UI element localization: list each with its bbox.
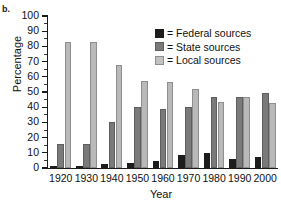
bar xyxy=(76,166,83,168)
bar xyxy=(211,97,218,168)
y-axis-minor-tick xyxy=(44,130,47,131)
panel-label: b. xyxy=(2,4,10,15)
x-axis-tick-label: 1930 xyxy=(72,172,100,184)
bar xyxy=(218,102,225,168)
y-axis-tick-label: 60 xyxy=(13,71,39,82)
bar xyxy=(204,153,211,168)
bar xyxy=(153,161,160,168)
legend-item: = Federal sources xyxy=(155,27,279,39)
bar-group xyxy=(76,16,97,168)
legend-swatch-federal xyxy=(155,29,164,38)
y-axis-tick xyxy=(42,137,47,138)
y-axis-minor-tick xyxy=(44,84,47,85)
y-axis-tick-label: 80 xyxy=(13,40,39,51)
bar-group xyxy=(101,16,122,168)
bar xyxy=(255,157,262,168)
bar xyxy=(243,97,250,168)
x-axis-tick-label: 1940 xyxy=(98,172,126,184)
legend-label: = Federal sources xyxy=(167,27,251,39)
y-axis-tick xyxy=(42,122,47,123)
legend-item: = State sources xyxy=(155,41,279,53)
bar xyxy=(269,103,276,168)
bar xyxy=(141,81,148,168)
bar xyxy=(160,109,167,168)
bar xyxy=(167,82,174,168)
y-axis-tick xyxy=(42,15,47,16)
bar xyxy=(127,163,134,168)
y-axis-minor-tick xyxy=(44,99,47,100)
y-axis-minor-tick xyxy=(44,145,47,146)
bar xyxy=(262,93,269,168)
bar xyxy=(192,89,199,168)
y-axis-tick-label: 20 xyxy=(13,132,39,143)
x-axis-title: Year xyxy=(44,188,278,200)
bar xyxy=(185,107,192,168)
y-axis-tick xyxy=(42,46,47,47)
y-axis-tick xyxy=(42,31,47,32)
x-axis-tick-label: 1920 xyxy=(47,172,75,184)
y-axis-tick xyxy=(42,152,47,153)
bar xyxy=(178,155,185,168)
y-axis-minor-tick xyxy=(44,38,47,39)
y-axis-tick xyxy=(42,107,47,108)
legend-swatch-state xyxy=(155,42,164,51)
y-axis-tick-label: 40 xyxy=(13,101,39,112)
y-axis-tick xyxy=(42,167,47,168)
bar xyxy=(116,65,123,168)
legend-label: = State sources xyxy=(167,41,240,53)
bar xyxy=(229,159,236,168)
legend-label: = Local sources xyxy=(167,54,241,66)
bar xyxy=(134,107,141,168)
y-axis-tick xyxy=(42,91,47,92)
y-axis-minor-tick xyxy=(44,160,47,161)
bar-group xyxy=(127,16,148,168)
y-axis-tick-label: 50 xyxy=(13,86,39,97)
x-axis-tick-label: 1970 xyxy=(175,172,203,184)
y-axis-minor-tick xyxy=(44,114,47,115)
bar-chart-figure: b. Percentage Year 010203040506070809010… xyxy=(0,0,281,204)
bar xyxy=(50,166,57,168)
y-axis-tick-label: 30 xyxy=(13,116,39,127)
legend-item: = Local sources xyxy=(155,54,279,66)
bar xyxy=(57,144,64,168)
bar xyxy=(109,122,116,168)
x-axis-tick-label: 1990 xyxy=(226,172,254,184)
y-axis-minor-tick xyxy=(44,69,47,70)
x-axis-tick-label: 1950 xyxy=(123,172,151,184)
bar xyxy=(90,42,97,168)
bar xyxy=(236,97,243,168)
y-axis-tick-label: 90 xyxy=(13,25,39,36)
x-axis-tick-label: 2000 xyxy=(251,172,279,184)
legend-swatch-local xyxy=(155,56,164,65)
y-axis-tick-label: 10 xyxy=(13,147,39,158)
y-axis-tick-label: 100 xyxy=(13,10,39,21)
bar xyxy=(101,164,108,168)
bar xyxy=(83,144,90,168)
y-axis-tick-label: 70 xyxy=(13,56,39,67)
chart-legend: = Federal sources= State sources= Local … xyxy=(155,27,279,68)
x-axis-tick-label: 1980 xyxy=(200,172,228,184)
y-axis-tick-label: 0 xyxy=(13,162,39,173)
bar-group xyxy=(50,16,71,168)
bar xyxy=(65,42,72,168)
y-axis-minor-tick xyxy=(44,23,47,24)
x-axis-tick-label: 1960 xyxy=(149,172,177,184)
y-axis-tick xyxy=(42,61,47,62)
y-axis-minor-tick xyxy=(44,54,47,55)
y-axis-tick xyxy=(42,76,47,77)
